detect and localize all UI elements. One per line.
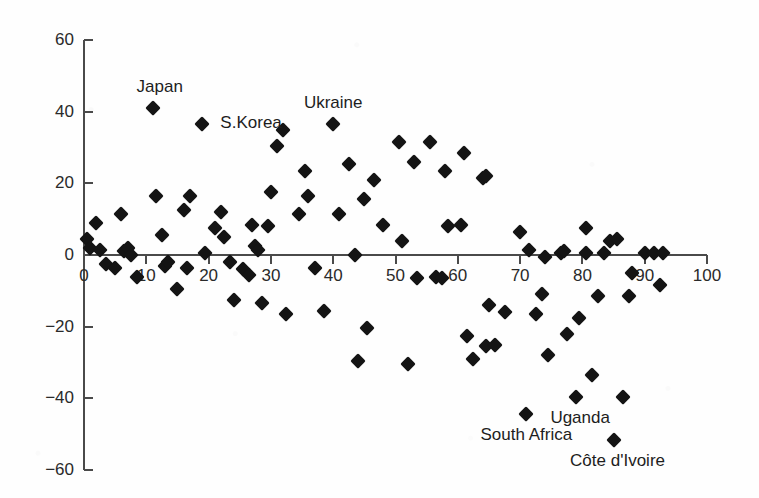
x-tick-0 xyxy=(83,255,85,264)
data-point xyxy=(254,296,270,312)
data-point xyxy=(568,389,584,405)
data-point xyxy=(154,228,170,244)
point-label: S.Korea xyxy=(220,114,281,132)
point-label: Japan xyxy=(137,78,183,96)
x-tick-10 xyxy=(145,255,147,264)
point-label: Ukraine xyxy=(304,94,363,112)
data-point xyxy=(459,328,475,344)
x-tick-50 xyxy=(395,255,397,264)
data-point xyxy=(578,220,594,236)
x-tick-label-100: 100 xyxy=(677,267,737,284)
plot-area: −60−40−2002040600102030405060708090100Ja… xyxy=(0,0,759,498)
data-point xyxy=(615,389,631,405)
point-label: South Africa xyxy=(480,426,572,444)
data-point xyxy=(438,163,454,179)
data-point xyxy=(176,202,192,218)
data-point xyxy=(528,306,544,322)
y-tick--20 xyxy=(84,326,93,328)
data-point xyxy=(366,172,382,188)
data-point xyxy=(195,116,211,132)
x-tick-60 xyxy=(457,255,459,264)
data-point xyxy=(400,357,416,373)
data-point xyxy=(350,353,366,369)
data-point xyxy=(269,138,285,154)
data-point xyxy=(357,192,373,208)
data-point xyxy=(540,348,556,364)
y-tick-40 xyxy=(84,111,93,113)
data-point xyxy=(325,116,341,132)
data-point xyxy=(656,245,672,261)
data-point xyxy=(466,351,482,367)
data-point xyxy=(559,326,575,342)
y-tick-label-20: 20 xyxy=(6,174,74,191)
x-tick-70 xyxy=(519,255,521,264)
y-tick-label--60: −60 xyxy=(6,461,74,478)
scatter-chart-figure: −60−40−2002040600102030405060708090100Ja… xyxy=(0,0,759,498)
data-point xyxy=(453,217,469,233)
data-point xyxy=(297,163,313,179)
data-point xyxy=(182,188,198,204)
data-point xyxy=(226,292,242,308)
data-point xyxy=(456,145,472,161)
data-point xyxy=(260,219,276,235)
data-point xyxy=(145,100,161,116)
data-point xyxy=(316,303,332,319)
data-point xyxy=(590,288,606,304)
y-tick--60 xyxy=(84,469,93,471)
data-point xyxy=(198,245,214,261)
y-tick-label--40: −40 xyxy=(6,389,74,406)
data-point xyxy=(406,154,422,170)
data-point xyxy=(213,204,229,220)
y-tick--40 xyxy=(84,397,93,399)
x-tick-label-90: 90 xyxy=(615,267,675,284)
data-point xyxy=(578,245,594,261)
data-point xyxy=(621,288,637,304)
data-point xyxy=(534,287,550,303)
y-tick-label--20: −20 xyxy=(6,318,74,335)
x-tick-label-80: 80 xyxy=(552,267,612,284)
y-tick-label-40: 40 xyxy=(6,103,74,120)
data-point xyxy=(537,249,553,265)
data-point xyxy=(347,247,363,263)
x-tick-30 xyxy=(270,255,272,264)
data-point xyxy=(341,156,357,172)
point-label: Côte d'Ivoire xyxy=(570,452,665,470)
data-point xyxy=(375,217,391,233)
point-label: Uganda xyxy=(550,409,610,427)
x-tick-100 xyxy=(706,255,708,264)
data-point xyxy=(519,407,535,423)
data-point xyxy=(279,306,295,322)
x-tick-40 xyxy=(332,255,334,264)
data-point xyxy=(332,206,348,222)
data-point xyxy=(291,206,307,222)
y-tick-label-0: 0 xyxy=(6,246,74,263)
data-point xyxy=(394,233,410,249)
y-tick-60 xyxy=(84,39,93,41)
data-point xyxy=(497,305,513,321)
data-point xyxy=(572,310,588,326)
data-point xyxy=(114,206,130,222)
data-point xyxy=(148,188,164,204)
data-point xyxy=(263,185,279,201)
data-point xyxy=(391,134,407,150)
data-point xyxy=(422,134,438,150)
data-point xyxy=(584,367,600,383)
data-point xyxy=(300,188,316,204)
y-tick-label-60: 60 xyxy=(6,31,74,48)
x-tick-label-70: 70 xyxy=(490,267,550,284)
y-tick-20 xyxy=(84,182,93,184)
data-point xyxy=(89,215,105,231)
data-point xyxy=(512,224,528,240)
data-point xyxy=(244,217,260,233)
data-point xyxy=(360,321,376,337)
data-point xyxy=(481,297,497,313)
data-point xyxy=(606,432,622,448)
